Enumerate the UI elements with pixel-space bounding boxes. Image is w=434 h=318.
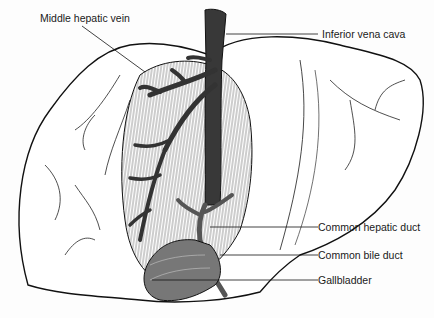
label-inferior-vena-cava: Inferior vena cava (322, 28, 405, 40)
liver-diagram: Middle hepatic vein Inferior vena cava C… (0, 0, 434, 318)
label-middle-hepatic-vein: Middle hepatic vein (40, 12, 130, 24)
liver-illustration (0, 0, 434, 318)
label-gallbladder: Gallbladder (318, 274, 372, 286)
label-common-hepatic-duct: Common hepatic duct (318, 221, 420, 233)
label-common-bile-duct: Common bile duct (318, 249, 403, 261)
